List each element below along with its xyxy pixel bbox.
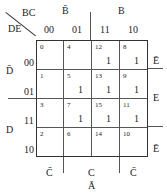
cell-index: 6 bbox=[67, 131, 71, 138]
cell-index: 8 bbox=[123, 44, 127, 51]
col-group-b: B bbox=[118, 6, 125, 16]
cell-value: 1 bbox=[134, 114, 139, 124]
cell-index: 0 bbox=[40, 44, 44, 51]
row-header-01: 01 bbox=[24, 87, 34, 97]
kmap-grid: 0 4 12 8 1 1 1 5 13 9 1 1 1 3 7 15 11 1 … bbox=[36, 40, 148, 157]
right-label-e: E bbox=[153, 93, 159, 103]
col-group-b-bar: B̄ bbox=[62, 6, 69, 16]
col-header-00: 00 bbox=[44, 25, 54, 35]
row-header-11: 11 bbox=[24, 116, 34, 126]
cell-index: 4 bbox=[67, 44, 71, 51]
col-header-10: 10 bbox=[128, 25, 138, 35]
row-header-00: 00 bbox=[24, 58, 34, 68]
row-vars-label: DE bbox=[8, 24, 21, 34]
col-header-11: 11 bbox=[100, 25, 110, 35]
e-divider-top bbox=[148, 68, 163, 69]
c-divider-right bbox=[119, 157, 120, 173]
cell-index: 5 bbox=[67, 73, 71, 80]
cell-index: 2 bbox=[40, 131, 44, 138]
cell-index: 12 bbox=[95, 44, 102, 51]
cell-index: 3 bbox=[40, 102, 44, 109]
cell-value: 1 bbox=[106, 56, 111, 66]
col-vars-label: BC bbox=[22, 8, 35, 18]
cell-index: 13 bbox=[95, 73, 102, 80]
b-divider bbox=[90, 12, 91, 40]
row-header-10: 10 bbox=[24, 145, 34, 155]
c-divider-left bbox=[63, 157, 64, 173]
cell-index: 11 bbox=[123, 102, 130, 109]
cell-value: 1 bbox=[78, 114, 83, 124]
col-header-01: 01 bbox=[72, 25, 82, 35]
cell-index: 14 bbox=[95, 131, 102, 138]
cell-value: 1 bbox=[134, 85, 139, 95]
cell-index: 1 bbox=[40, 73, 44, 80]
right-label-e-bar-bottom: Ē bbox=[153, 144, 159, 154]
bottom-label-c-bar-right: C̄ bbox=[130, 168, 137, 178]
cell-value: 1 bbox=[106, 114, 111, 124]
row-group-d-bar: D̄ bbox=[6, 66, 13, 76]
cell-value: 1 bbox=[134, 56, 139, 66]
cell-index: 15 bbox=[95, 102, 102, 109]
cell-value: 1 bbox=[78, 85, 83, 95]
cell-index: 7 bbox=[67, 102, 71, 109]
cell-index: 9 bbox=[123, 73, 127, 80]
row-group-d: D bbox=[6, 125, 13, 135]
right-label-e-bar-top: Ē bbox=[153, 56, 159, 66]
bottom-label-c-bar-left: C̄ bbox=[46, 168, 53, 178]
bottom-label-c: C bbox=[88, 168, 95, 178]
cell-index: 10 bbox=[123, 131, 130, 138]
cell-value: 1 bbox=[106, 85, 111, 95]
e-divider-bottom bbox=[148, 126, 163, 127]
d-divider bbox=[8, 98, 36, 99]
map-label-a-bar: Ā bbox=[88, 181, 95, 191]
